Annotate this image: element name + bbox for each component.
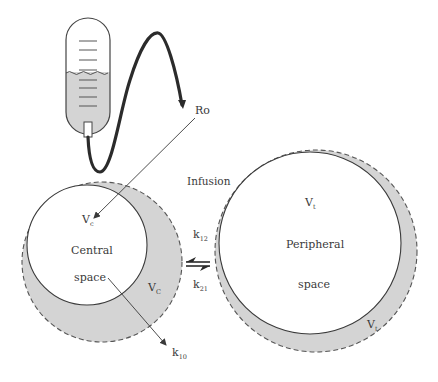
iv-bag-icon: [60, 18, 116, 142]
central-compartment: [22, 182, 182, 342]
ro-label: Ro: [195, 104, 210, 117]
central-name-line2: space: [74, 271, 106, 284]
peripheral-compartment: [215, 150, 417, 352]
central-name-line1: Central: [71, 244, 113, 257]
k21-label: k21: [193, 278, 208, 293]
infusion-label: Infusion: [187, 175, 231, 187]
k10-label: k10: [172, 346, 187, 361]
k12-label: k12: [193, 228, 208, 243]
pk-two-compartment-diagram: Ro Infusion Vc Central space VC k12 k21 …: [0, 0, 438, 382]
bag-port: [84, 122, 92, 137]
peripheral-name-line1: Peripheral: [286, 238, 345, 251]
tube-tip-icon: [178, 100, 186, 109]
equilibrium-arrows-icon: [186, 257, 210, 271]
peripheral-name-line2: space: [298, 278, 330, 291]
